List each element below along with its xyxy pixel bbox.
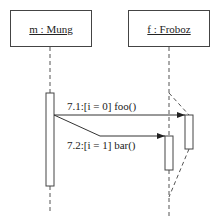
activation-bar-m [46,93,54,186]
sequence-diagram: m : Mung f : Froboz 7.1:[i = 0] foo() 7.… [0,0,222,223]
object-label-m: m : Mung [29,23,72,35]
message-arrow-7-2 [54,115,165,136]
message-label-7-2: 7.2:[i = 1] bar() [67,140,136,151]
object-box-f: f : Froboz [128,10,210,47]
object-box-m: m : Mung [10,10,92,47]
message-label-7-1: 7.1:[i = 0] foo() [67,101,136,112]
object-label-f: f : Froboz [147,23,190,35]
activation-bar-f-foo [185,115,193,149]
activation-bar-f-bar [165,136,173,170]
